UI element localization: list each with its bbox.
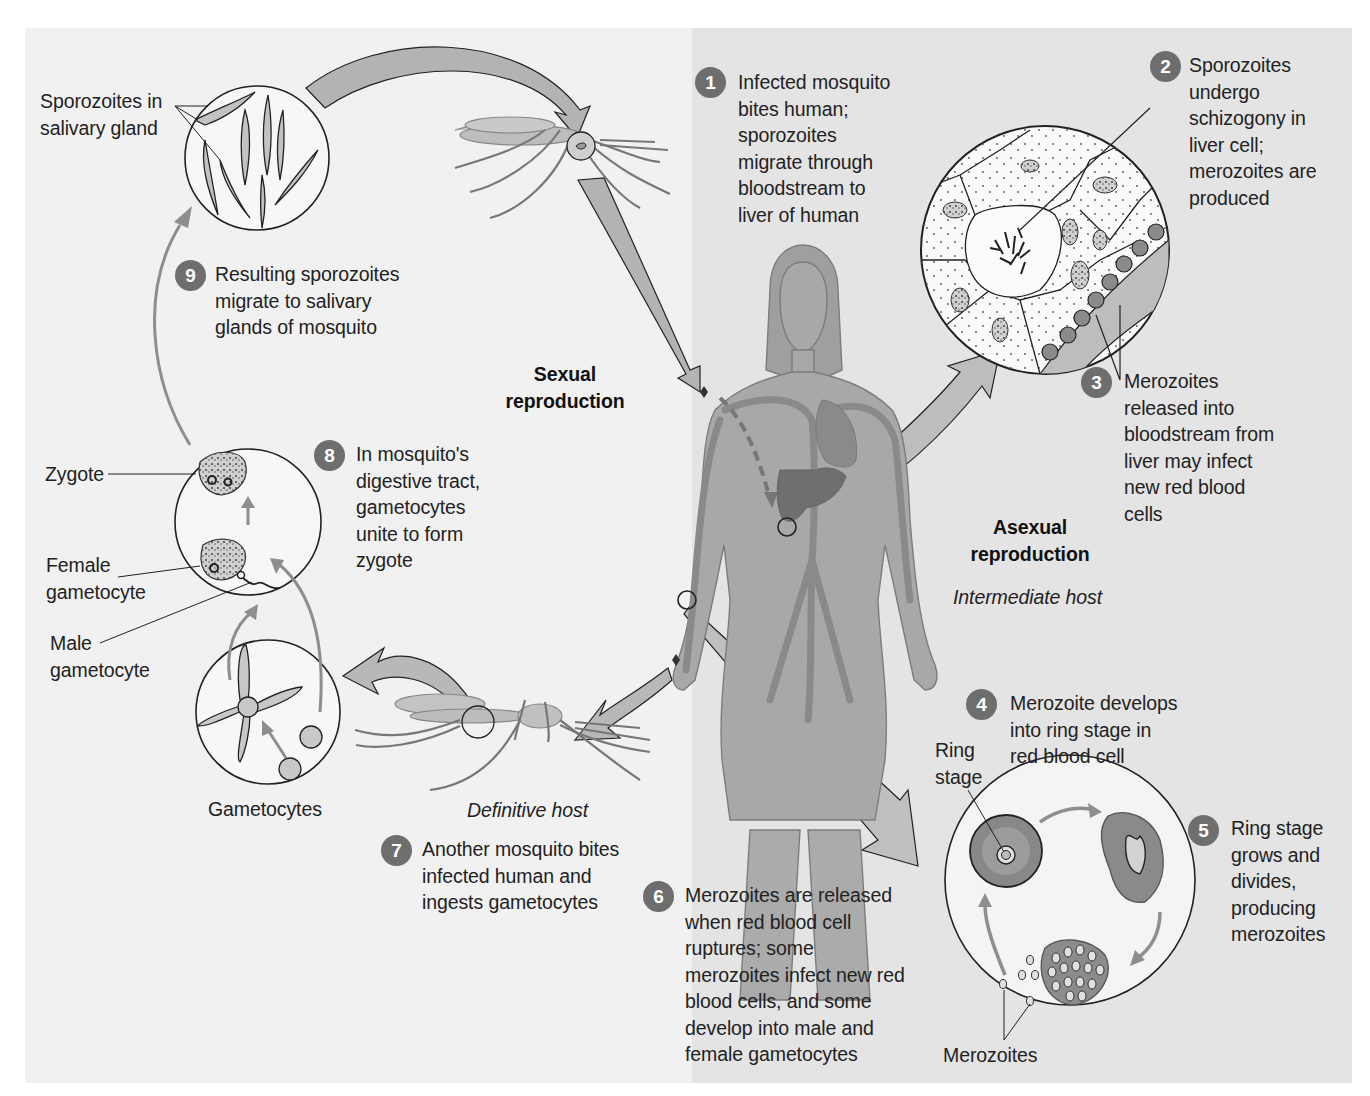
label-sporozoites-in-salivary-gland: Sporozoites in salivary gland [40, 88, 162, 141]
label-ring-stage: Ring stage [935, 737, 982, 790]
label-female-gametocyte: Female gametocyte [46, 552, 146, 605]
label-zygote: Zygote [45, 461, 104, 488]
step-badge-3: 3 [1081, 367, 1112, 398]
step-badge-1: 1 [695, 67, 726, 98]
step-6-text: Merozoites are released when red blood c… [685, 882, 905, 1068]
gametocytes-circle [196, 640, 340, 784]
label-definitive-host: Definitive host [467, 797, 588, 824]
step-badge-2: 2 [1150, 51, 1181, 82]
step-badge-8: 8 [314, 440, 345, 471]
arrow-mosquito-to-human [578, 178, 700, 392]
step-3-text: Merozoites released into bloodstream fro… [1124, 368, 1274, 527]
label-merozoites: Merozoites [943, 1042, 1037, 1069]
step-7-text: Another mosquito bites infected human an… [422, 836, 619, 916]
malaria-life-cycle-diagram: Sporozoites in salivary gland 1 Infected… [0, 0, 1370, 1096]
step-4-text: Merozoite develops into ring stage in re… [1010, 690, 1177, 770]
step-2-text: Sporozoites undergo schizogony in liver … [1189, 52, 1317, 211]
mosquito-top [455, 117, 670, 218]
region-asexual-reproduction: Asexual reproduction [955, 514, 1105, 567]
step-5-text: Ring stage grows and divides, producing … [1231, 815, 1325, 948]
step-1-text: Infected mosquito bites human; sporozoit… [738, 69, 890, 228]
label-male-gametocyte: Male gametocyte [50, 630, 150, 683]
step-badge-4: 4 [966, 689, 997, 720]
mosquito-bottom [355, 694, 650, 790]
region-sexual-reproduction: Sexual reproduction [490, 361, 640, 414]
arrow-human-to-mosquito [575, 668, 672, 740]
salivary-gland-circle [175, 86, 329, 230]
label-gametocytes: Gametocytes [208, 796, 322, 823]
label-intermediate-host: Intermediate host [953, 584, 1102, 611]
step-badge-6: 6 [643, 881, 674, 912]
step-8-text: In mosquito's digestive tract, gametocyt… [356, 441, 480, 574]
rbc-cycle-circle [945, 755, 1195, 1040]
step-badge-5: 5 [1188, 815, 1219, 846]
step-badge-9: 9 [175, 260, 206, 291]
step-badge-7: 7 [381, 835, 412, 866]
liver-cell-circle [921, 108, 1169, 380]
zygote-circle [175, 449, 321, 595]
step-9-text: Resulting sporozoites migrate to salivar… [215, 261, 399, 341]
arrow-zygote-to-gland [155, 225, 190, 445]
